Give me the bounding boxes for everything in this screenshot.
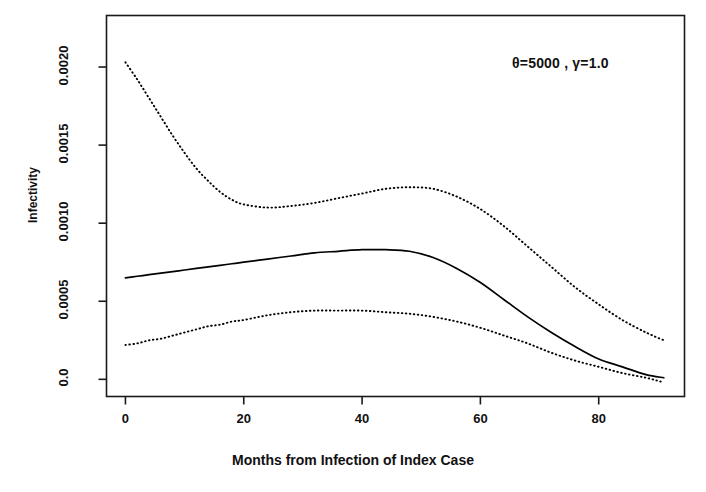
x-tick-label: 20	[222, 411, 266, 426]
plot-box	[107, 16, 685, 397]
y-axis-ticks	[99, 67, 107, 379]
y-tick-label: 0.0	[55, 348, 70, 408]
data-series-group	[125, 62, 663, 382]
x-tick-label: 80	[577, 411, 621, 426]
y-axis-title: Infectivity	[26, 150, 40, 240]
y-tick-label: 0.0020	[55, 36, 70, 96]
x-tick-label: 40	[340, 411, 384, 426]
x-axis-title: Months from Infection of Index Case	[0, 452, 706, 468]
y-tick-label: 0.0015	[55, 114, 70, 174]
x-tick-label: 0	[103, 411, 147, 426]
series-upper-confidence-band	[125, 62, 663, 340]
x-axis-ticks	[125, 397, 598, 405]
chart-figure: 020406080 0.00.00050.00100.00150.0020 In…	[0, 0, 706, 492]
y-tick-label: 0.0005	[55, 270, 70, 330]
x-tick-label: 60	[458, 411, 502, 426]
y-tick-label: 0.0010	[55, 192, 70, 252]
series-fitted-infectivity	[125, 250, 663, 378]
parameter-annotation: θ=5000 , γ=1.0	[512, 55, 609, 71]
series-lower-confidence-band	[125, 311, 663, 383]
